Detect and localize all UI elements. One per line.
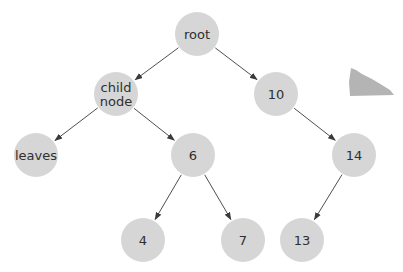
edge-root-to-n10 [215, 48, 257, 80]
tree-node-n6: 6 [171, 133, 215, 177]
tree-diagram: rootchildnode10leaves6144713 [0, 0, 403, 272]
edge-child-to-n6 [134, 108, 174, 140]
node-layer: rootchildnode10leaves6144713 [14, 12, 376, 262]
node-label: leaves [15, 148, 57, 163]
tree-node-n7: 7 [221, 218, 265, 262]
node-label: 13 [294, 233, 311, 248]
node-label: 4 [139, 233, 147, 248]
node-label: root [184, 27, 210, 42]
node-label: child [101, 80, 132, 95]
edge-n6-to-n7 [205, 175, 231, 220]
tree-node-n10: 10 [254, 72, 298, 116]
edge-child-to-leaves [55, 108, 98, 140]
node-label: 14 [346, 148, 363, 163]
node-label: node [100, 94, 132, 109]
node-label: 10 [268, 87, 285, 102]
tree-node-root: root [175, 12, 219, 56]
tree-canvas: rootchildnode10leaves6144713 [0, 0, 403, 272]
tree-node-child: childnode [94, 72, 138, 116]
tree-node-n4: 4 [121, 218, 165, 262]
edge-layer [55, 48, 342, 220]
tree-node-n13: 13 [280, 218, 324, 262]
edge-n10-to-n14 [294, 108, 335, 140]
edge-n6-to-n4 [155, 175, 181, 220]
gray-wedge-shape [349, 68, 394, 96]
edge-n14-to-n13 [315, 175, 343, 220]
node-label: 7 [239, 233, 247, 248]
tree-node-n14: 14 [332, 133, 376, 177]
node-label: 6 [189, 148, 197, 163]
tree-node-leaves: leaves [14, 133, 58, 177]
edge-root-to-child [135, 48, 178, 80]
decoration-layer [349, 68, 394, 96]
